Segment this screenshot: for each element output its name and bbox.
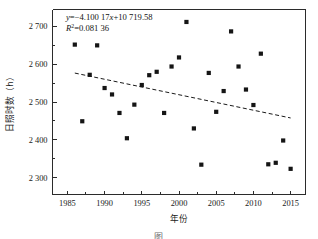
x-tick-label: 2000: [171, 199, 188, 208]
r-squared-value: =0.081 36: [74, 23, 110, 33]
data-point: [229, 29, 233, 33]
data-point: [73, 43, 77, 47]
data-point: [281, 138, 285, 142]
x-tick-label: 1990: [96, 199, 113, 208]
y-tick-label: 2 500: [29, 98, 48, 107]
data-point: [110, 92, 114, 96]
data-point: [140, 83, 144, 87]
regression-equation-label: y=−4.100 17x+10 719.58: [65, 12, 153, 22]
equation-tail: +10 719.58: [113, 12, 152, 22]
data-point: [289, 167, 293, 171]
data-point: [266, 162, 270, 166]
data-point: [251, 103, 255, 107]
data-point: [259, 52, 263, 56]
data-point: [80, 119, 84, 123]
x-tick-label: 1985: [59, 199, 76, 208]
data-point: [177, 55, 181, 59]
data-point: [155, 70, 159, 74]
data-point: [132, 103, 136, 107]
chart-background: [0, 0, 318, 239]
y-tick-label: 2 700: [29, 22, 48, 31]
data-point: [222, 89, 226, 93]
y-tick-label: 2 300: [29, 174, 48, 183]
data-point: [169, 64, 173, 68]
y-tick-label: 2 600: [29, 60, 48, 69]
x-tick-label: 1995: [133, 199, 150, 208]
data-point: [214, 110, 218, 114]
data-point: [236, 64, 240, 68]
sunshine-duration-figure: 2 3002 4002 5002 6002 700 19851990199520…: [0, 0, 318, 239]
x-axis-title: 年份: [170, 213, 188, 224]
data-point: [244, 87, 248, 91]
data-point: [162, 111, 166, 115]
x-tick-label: 2010: [245, 199, 262, 208]
data-point: [207, 71, 211, 75]
data-point: [125, 136, 129, 140]
scatter-chart: 2 3002 4002 5002 6002 700 19851990199520…: [0, 0, 318, 239]
x-tick-label: 2005: [208, 199, 225, 208]
data-point: [199, 163, 203, 167]
y-tick-label: 2 400: [29, 136, 48, 145]
data-point: [192, 126, 196, 130]
x-tick-label: 2015: [282, 199, 299, 208]
data-point: [274, 161, 278, 165]
data-point: [117, 111, 121, 115]
data-point: [95, 43, 99, 47]
data-point: [102, 86, 106, 90]
figure-caption: 图: [0, 227, 318, 239]
data-point: [88, 73, 92, 77]
y-axis-title: 日照时数（h）: [4, 72, 15, 131]
equation-body: =−4.100 17: [70, 12, 110, 22]
data-point: [147, 73, 151, 77]
data-point: [184, 20, 188, 24]
